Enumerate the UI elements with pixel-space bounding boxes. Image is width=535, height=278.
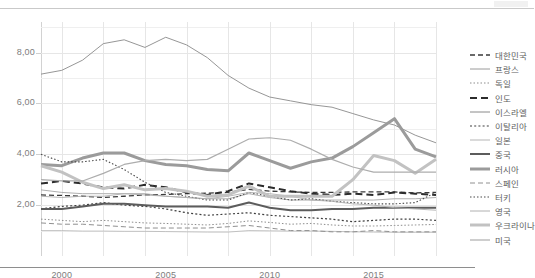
legend-item-label: 이탈리아 — [495, 120, 527, 132]
legend-item-label: 영국 — [495, 205, 511, 217]
legend-item-label: 스페인 — [495, 177, 519, 189]
legend-item-label: 인도 — [495, 92, 511, 104]
legend-swatch-icon — [470, 235, 490, 245]
legend-swatch-icon — [470, 121, 490, 131]
x-axis-tick-label: 2015 — [354, 270, 394, 278]
legend-item[interactable]: 러시아 — [470, 162, 534, 176]
legend-swatch-icon — [470, 50, 490, 60]
legend-swatch-icon — [470, 135, 490, 145]
legend-item[interactable]: 인도 — [470, 91, 534, 105]
legend-item[interactable]: 프랑스 — [470, 62, 534, 76]
series-lines — [41, 22, 436, 256]
legend-item-label: 러시아 — [495, 163, 519, 175]
legend-swatch-icon — [470, 64, 490, 74]
y-axis-tick-label: 8,00 — [3, 47, 35, 57]
gridline-vertical — [436, 22, 437, 256]
y-axis-tick-label: 4,00 — [3, 148, 35, 158]
legend-item-label: 독일 — [495, 77, 511, 89]
legend-item[interactable]: 이스라엘 — [470, 105, 534, 119]
legend-swatch-icon — [470, 149, 490, 159]
series-line — [41, 37, 436, 143]
legend-item-label: 일본 — [495, 134, 511, 146]
plot-area — [41, 22, 436, 256]
legend-item-label: 우크라이나 — [495, 219, 535, 231]
legend-item[interactable]: 독일 — [470, 76, 534, 90]
chart-legend: 대한민국프랑스독일인도이스라엘이탈리아일본중국러시아스페인터키영국우크라이나미국 — [470, 48, 534, 247]
series-line — [41, 203, 436, 211]
legend-swatch-icon — [470, 78, 490, 88]
x-axis-line — [0, 267, 475, 268]
y-axis-tick-label: 2,00 — [3, 199, 35, 209]
legend-item[interactable]: 중국 — [470, 147, 534, 161]
legend-item[interactable]: 영국 — [470, 204, 534, 218]
x-axis-tick-label: 2010 — [250, 270, 290, 278]
legend-swatch-icon — [470, 93, 490, 103]
legend-item[interactable]: 스페인 — [470, 176, 534, 190]
legend-item-label: 중국 — [495, 148, 511, 160]
legend-item-label: 대한민국 — [495, 49, 527, 61]
legend-item-label: 터키 — [495, 191, 511, 203]
legend-swatch-icon — [470, 220, 490, 230]
legend-item[interactable]: 이탈리아 — [470, 119, 534, 133]
legend-swatch-icon — [470, 164, 490, 174]
legend-swatch-icon — [470, 206, 490, 216]
legend-swatch-icon — [470, 192, 490, 202]
legend-item-label: 이스라엘 — [495, 106, 527, 118]
x-axis-tick-label: 2000 — [42, 270, 82, 278]
legend-swatch-icon — [470, 178, 490, 188]
legend-item[interactable]: 일본 — [470, 133, 534, 147]
legend-item[interactable]: 우크라이나 — [470, 218, 534, 232]
legend-item[interactable]: 터키 — [470, 190, 534, 204]
x-axis-tick-label: 2005 — [146, 270, 186, 278]
legend-item[interactable]: 대한민국 — [470, 48, 534, 62]
y-axis-tick-label: 6,00 — [3, 97, 35, 107]
legend-item[interactable]: 미국 — [470, 232, 534, 246]
legend-item-label: 프랑스 — [495, 63, 519, 75]
series-line — [41, 223, 436, 232]
legend-item-label: 미국 — [495, 234, 511, 246]
legend-swatch-icon — [470, 107, 490, 117]
